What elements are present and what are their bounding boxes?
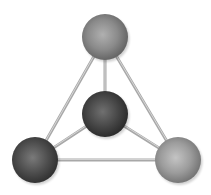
atom-sphere — [82, 91, 128, 137]
atom-top — [82, 14, 130, 62]
tetrahedral-molecule-diagram — [0, 0, 211, 195]
atom-sphere — [82, 14, 128, 60]
molecule-svg — [0, 0, 211, 195]
atom-center — [82, 91, 130, 139]
atom-sphere — [155, 137, 201, 183]
atom-bottom-right — [155, 137, 203, 185]
atom-sphere — [12, 137, 58, 183]
atom-bottom-left — [12, 137, 60, 185]
